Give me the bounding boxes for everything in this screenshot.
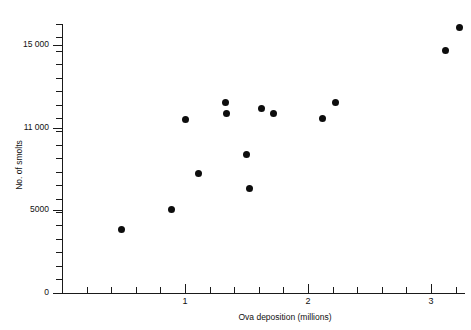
y-axis-tick-major: [53, 293, 63, 294]
data-point: [258, 105, 265, 112]
y-axis-tick: [56, 105, 63, 106]
y-axis-tick: [56, 266, 63, 267]
y-axis-tick-major: [53, 210, 63, 211]
y-axis-tick: [56, 118, 63, 119]
y-axis-title: No. of smolts: [14, 115, 24, 215]
y-axis-tick-major: [53, 128, 63, 129]
y-axis-tick: [56, 252, 63, 253]
y-axis-tick: [56, 131, 63, 132]
y-axis-tick: [56, 225, 63, 226]
x-axis-tick: [234, 287, 235, 294]
x-axis-tick: [210, 287, 211, 294]
data-point: [168, 206, 175, 213]
y-axis-tick: [56, 91, 63, 92]
x-axis-tick: [283, 287, 284, 294]
x-axis-tick-major: [431, 284, 432, 294]
y-axis-tick: [56, 279, 63, 280]
data-point: [246, 185, 253, 192]
data-point: [332, 99, 339, 106]
y-axis-tick: [56, 212, 63, 213]
x-axis-tick: [259, 287, 260, 294]
y-axis-tick: [56, 78, 63, 79]
y-axis-tick-label: 5000: [3, 205, 49, 214]
plot-area: 0500011 00015 000123: [0, 0, 471, 330]
data-point: [182, 116, 189, 123]
data-point: [270, 110, 277, 117]
x-axis-tick: [382, 287, 383, 294]
x-axis-tick: [333, 287, 334, 294]
x-axis-tick: [160, 287, 161, 294]
scatter-plot-figure: 0500011 00015 000123 No. of smolts Ova d…: [0, 0, 471, 330]
x-axis-tick: [111, 287, 112, 294]
y-axis-tick: [56, 172, 63, 173]
y-axis-tick: [56, 145, 63, 146]
data-point: [195, 170, 202, 177]
y-axis-tick: [56, 24, 63, 25]
x-axis-tick-major: [308, 284, 309, 294]
x-axis-tick-label: 3: [419, 296, 443, 306]
data-point: [223, 110, 230, 117]
y-axis-tick: [56, 64, 63, 65]
data-point: [442, 47, 449, 54]
y-axis-tick: [56, 239, 63, 240]
x-axis-tick: [357, 287, 358, 294]
data-point: [243, 151, 250, 158]
y-axis-tick-major: [53, 45, 63, 46]
y-axis-tick-label: 15 000: [3, 40, 49, 49]
y-axis-tick: [56, 185, 63, 186]
y-axis-tick: [56, 199, 63, 200]
x-axis-tick: [136, 287, 137, 294]
y-axis-tick: [56, 158, 63, 159]
x-axis-tick: [406, 287, 407, 294]
data-point: [456, 24, 463, 31]
y-axis-tick-label: 11 000: [3, 123, 49, 132]
data-point: [319, 115, 326, 122]
y-axis-tick-label: 0: [3, 288, 49, 297]
x-axis-tick-label: 2: [296, 296, 320, 306]
y-axis-tick: [56, 51, 63, 52]
x-axis-title: Ova deposition (millions): [195, 312, 375, 322]
x-axis-tick: [456, 287, 457, 294]
y-axis-tick: [56, 37, 63, 38]
data-point: [118, 226, 125, 233]
x-axis-tick: [87, 287, 88, 294]
x-axis-tick-label: 1: [173, 296, 197, 306]
x-axis-tick-major: [185, 284, 186, 294]
data-point: [222, 99, 229, 106]
